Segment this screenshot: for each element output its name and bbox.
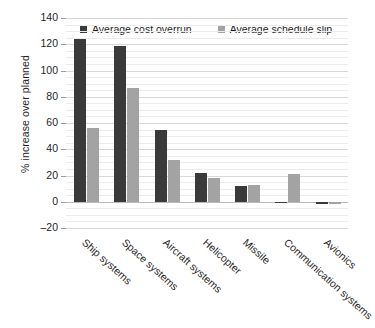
bar xyxy=(275,202,287,203)
bar xyxy=(168,160,180,202)
bar-group xyxy=(153,18,187,228)
x-axis-tick-label: Missile xyxy=(241,236,273,266)
y-axis-tick-label: 120 xyxy=(22,37,58,49)
bar xyxy=(316,202,328,205)
bar xyxy=(288,174,300,202)
bar xyxy=(195,173,207,202)
y-axis-tick-label: 20 xyxy=(22,169,58,181)
y-axis-tick-label: 0 xyxy=(22,195,58,207)
x-axis-tick-label: Ship systems xyxy=(80,236,134,287)
bar xyxy=(155,130,167,202)
bar xyxy=(248,185,260,202)
y-axis-tick-label: 80 xyxy=(22,90,58,102)
x-axis-tick-label: Space systems xyxy=(120,236,181,293)
y-axis-tick-label: 60 xyxy=(22,116,58,128)
bar xyxy=(329,202,341,205)
bar-groups xyxy=(66,18,348,228)
bar xyxy=(235,186,247,202)
y-axis-tick-label: 140 xyxy=(22,11,58,23)
bar xyxy=(208,178,220,202)
bar xyxy=(87,128,99,202)
y-axis-tick-label: 40 xyxy=(22,142,58,154)
x-axis-tick-label: Aircraft systems xyxy=(161,236,225,295)
y-axis-tick-mark xyxy=(61,228,66,229)
x-axis-tick-label: Communication systems xyxy=(282,236,375,321)
bar-group xyxy=(233,18,267,228)
bar xyxy=(127,88,139,202)
plot-area: 140120100806040200–20 xyxy=(66,18,348,228)
x-axis-tick-label: Helicopter xyxy=(201,236,244,277)
bar-group xyxy=(193,18,227,228)
bar-group xyxy=(273,18,307,228)
gridline xyxy=(66,228,348,229)
y-axis-tick-label: –20 xyxy=(22,221,58,233)
bar-group xyxy=(314,18,348,228)
x-axis-tick-label: Avionics xyxy=(322,236,359,271)
y-axis-tick-label: 100 xyxy=(22,64,58,76)
bar xyxy=(74,39,86,202)
bar-group xyxy=(72,18,106,228)
bar xyxy=(114,46,126,202)
bar-group xyxy=(112,18,146,228)
